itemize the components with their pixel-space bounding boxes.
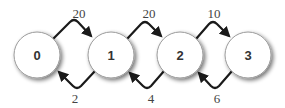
backward-rate-label-1-0: 2 [72,91,79,106]
backward-edge-2-1 [130,71,164,88]
backward-rate-label-2-1: 4 [148,91,155,106]
state-node-1: 1 [88,32,134,78]
forward-edge-1-2 [127,22,161,39]
forward-rate-label-1-2: 20 [143,6,156,21]
state-node-0: 0 [14,32,60,78]
state-label-3: 3 [244,48,251,63]
forward-edge-2-3 [196,22,229,39]
state-node-2: 2 [157,32,203,78]
backward-edge-1-0 [59,71,95,88]
backward-edge-3-2 [199,71,232,88]
state-node-3: 3 [225,32,271,78]
state-label-1: 1 [107,48,114,63]
forward-edge-0-1 [53,20,91,39]
forward-rate-label-0-1: 20 [73,6,86,21]
state-label-2: 2 [176,48,183,63]
state-label-0: 0 [33,48,40,63]
forward-rate-label-2-3: 10 [208,6,221,21]
backward-rate-label-3-2: 6 [214,91,221,106]
state-diagram: 0 1 2 3 20 20 10 2 4 6 [0,0,285,108]
